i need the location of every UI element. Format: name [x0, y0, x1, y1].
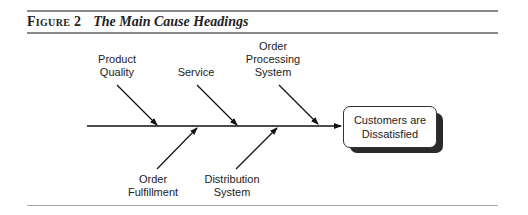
cause-distribution-system: Distribution System — [204, 173, 259, 199]
effect-box: Customers are Dissatisfied — [343, 106, 437, 148]
fishbone-diagram — [0, 0, 528, 215]
bone-order-fulfillment — [157, 128, 197, 169]
cause-order-processing-system: Order Processing System — [246, 40, 300, 79]
bone-product-quality — [117, 85, 157, 125]
bone-service — [197, 85, 237, 125]
cause-order-fulfillment: Order Fulfillment — [128, 173, 178, 199]
cause-product-quality: Product Quality — [98, 53, 136, 79]
bone-order-processing — [279, 85, 318, 124]
cause-service: Service — [178, 66, 215, 79]
bone-distribution-system — [236, 128, 277, 169]
bottom-rule — [27, 205, 498, 206]
